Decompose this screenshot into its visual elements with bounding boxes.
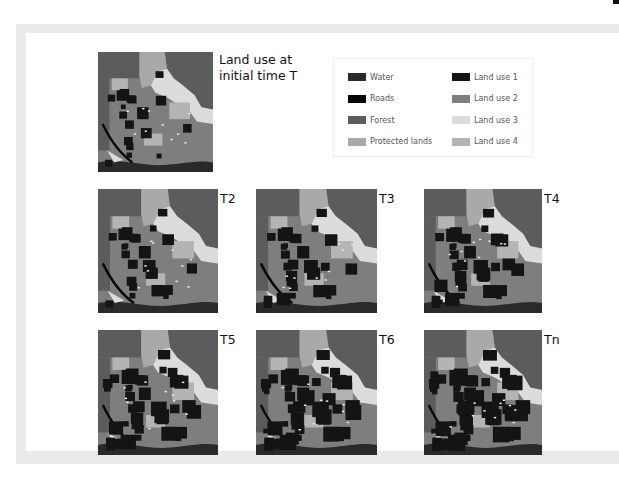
- land-use-map-t6: [256, 330, 377, 455]
- land-use-map-t: [98, 52, 213, 172]
- time-label-t4: T4: [544, 191, 560, 207]
- legend-label: Land use 4: [474, 137, 518, 146]
- legend-swatch: [452, 116, 470, 124]
- time-label-t5: T5: [220, 332, 236, 348]
- initial-time-label: Land use at initial time T: [219, 52, 297, 84]
- legend-item: Land use 4: [452, 136, 518, 148]
- legend-swatch: [452, 73, 470, 81]
- legend-item: Land use 2: [452, 93, 518, 105]
- time-label-t6: T6: [379, 332, 395, 348]
- initial-label-line2: initial time T: [219, 68, 297, 84]
- legend-swatch: [348, 138, 366, 146]
- land-use-map-t4: [424, 189, 542, 313]
- legend-label: Land use 2: [474, 94, 518, 103]
- legend-label: Water: [370, 73, 394, 82]
- time-label-t3: T3: [379, 191, 395, 207]
- time-label-tn: Tn: [544, 332, 560, 348]
- land-use-map-t3: [256, 189, 377, 313]
- legend-item: Land use 3: [452, 114, 518, 126]
- initial-label-line1: Land use at: [219, 52, 297, 68]
- legend-swatch: [348, 73, 366, 81]
- legend-label: Forest: [370, 116, 395, 125]
- legend-label: Land use 1: [474, 73, 518, 82]
- legend-label: Roads: [370, 94, 394, 103]
- legend-swatch: [452, 95, 470, 103]
- corner-mark: [613, 0, 619, 4]
- land-use-map-t2: [98, 189, 218, 313]
- land-use-map-tn: [424, 330, 542, 455]
- legend-swatch: [348, 116, 366, 124]
- legend-item: Protected lands: [348, 136, 432, 148]
- legend-label: Protected lands: [370, 137, 432, 146]
- legend-swatch: [452, 138, 470, 146]
- legend-item: Water: [348, 71, 394, 83]
- legend-item: Roads: [348, 93, 394, 105]
- legend-item: Land use 1: [452, 71, 518, 83]
- legend-label: Land use 3: [474, 116, 518, 125]
- land-use-map-t5: [98, 330, 218, 455]
- legend: WaterRoadsForestProtected landsLand use …: [333, 58, 533, 157]
- legend-item: Forest: [348, 114, 395, 126]
- time-label-t2: T2: [220, 191, 236, 207]
- legend-swatch: [348, 95, 366, 103]
